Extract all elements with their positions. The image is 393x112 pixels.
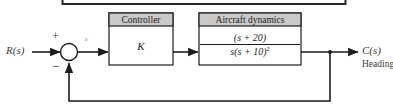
summing-junction-circle: [61, 44, 78, 61]
output-signal-label: C(s): [362, 45, 381, 56]
input-signal-label: R(s): [6, 45, 24, 56]
transfer-function-numerator: (s + 20): [200, 32, 300, 44]
aircraft-dynamics-block-title: Aircraft dynamics: [200, 14, 300, 26]
denominator-exponent: 2: [266, 45, 269, 52]
denominator-base: s(s + 10): [230, 46, 266, 57]
summing-junction-minus-sign: −: [52, 60, 59, 73]
block-diagram-figure: R(s) + − e Controller K Aircraft dynamic…: [0, 0, 393, 112]
controller-gain-label: K: [110, 40, 172, 52]
controller-block-title: Controller: [110, 14, 172, 26]
aircraft-transfer-function: (s + 20) s(s + 10)2: [200, 32, 300, 57]
error-signal-label: e: [85, 36, 88, 43]
transfer-function-denominator: s(s + 10)2: [200, 44, 300, 57]
output-signal-sublabel: Heading: [362, 60, 393, 70]
summing-junction-plus-sign: +: [52, 30, 59, 42]
diagram-vector-layer: [0, 0, 393, 112]
clipped-box-above: [63, 0, 346, 4]
